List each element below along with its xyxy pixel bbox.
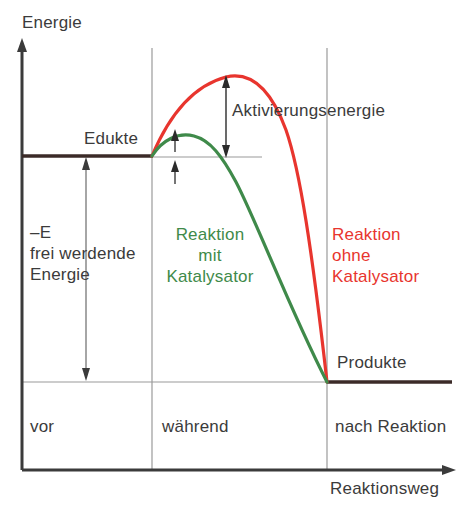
products-label: Produkte xyxy=(337,352,407,373)
energy-diagram: Energie Reaktionsweg Edukte Produkte Akt… xyxy=(0,0,474,509)
released-energy-line-3: Energie xyxy=(30,265,90,284)
curve-label-uncatalysed-line-1: Reaktion xyxy=(332,225,401,244)
curve-label-catalysed: Reaktion mit Katalysator xyxy=(158,224,262,287)
activation-energy-label: Aktivierungsenergie xyxy=(232,100,385,121)
x-axis-label: Reaktionsweg xyxy=(330,478,439,499)
stage-label-before: vor xyxy=(30,416,54,437)
curve-label-catalysed-line-3: Katalysator xyxy=(166,267,253,286)
curve-label-catalysed-line-1: Reaktion xyxy=(176,225,245,244)
released-energy-label: –E frei werdende Energie xyxy=(30,222,140,285)
curve-label-uncatalysed: Reaktion ohne Katalysator xyxy=(332,224,436,287)
curve-label-uncatalysed-line-2: ohne xyxy=(332,246,371,265)
x-axis-arrowhead xyxy=(442,465,456,475)
released-energy-line-1: –E xyxy=(30,223,51,242)
stage-label-after: nach Reaktion xyxy=(335,416,446,437)
released-energy-line-2: frei werdende xyxy=(30,244,136,263)
curve-label-uncatalysed-line-3: Katalysator xyxy=(332,267,419,286)
curve-label-catalysed-line-2: mit xyxy=(198,246,221,265)
y-axis-label: Energie xyxy=(22,12,82,33)
y-axis-arrowhead xyxy=(17,38,27,52)
stage-label-during: während xyxy=(162,416,229,437)
activation-energy-arrow xyxy=(222,75,230,158)
reactants-label: Edukte xyxy=(84,128,138,149)
